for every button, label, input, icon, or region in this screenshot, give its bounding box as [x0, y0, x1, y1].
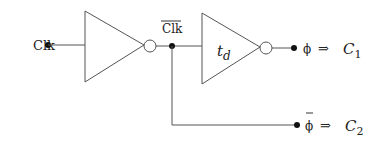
output-1-dot [291, 45, 297, 51]
inverter-2-bubble [260, 42, 272, 54]
output-2-dot [294, 122, 300, 128]
inverter-2-td: td [202, 13, 272, 84]
output-2-arrow: ⇒ [320, 118, 331, 133]
svg-text:Clk: Clk [162, 22, 183, 36]
inverter-2-triangle [202, 13, 260, 84]
output-1-phi: ϕ [303, 42, 311, 56]
output-1-target: C1 [343, 40, 361, 61]
inverter-1-triangle [85, 11, 144, 82]
inverter-1-bubble [144, 40, 156, 52]
circuit-diagram: Clk Clk td ϕ ⇒ C1 ϕ ⇒ C2 [0, 0, 376, 142]
delay-label: td [217, 42, 231, 63]
output-1-arrow: ⇒ [318, 41, 329, 56]
output-2-phi-bar: ϕ [305, 119, 313, 133]
clk-bar-label: Clk [161, 21, 183, 36]
branch-wire [172, 46, 296, 125]
inverter-1 [85, 11, 156, 82]
output-2-target: C2 [345, 117, 363, 138]
